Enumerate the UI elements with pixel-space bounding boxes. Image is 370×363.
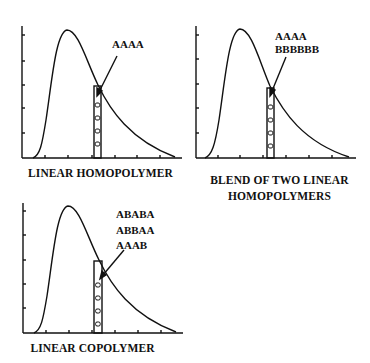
panel-caption: LINEAR COPOLYMER: [10, 342, 175, 354]
annotation-line: BBBBBB: [275, 43, 319, 56]
caption-line: HOMOPOLYMERS: [197, 188, 362, 204]
annotation-arrow: [103, 250, 124, 275]
annotation-line: AAAA: [112, 38, 144, 51]
panel-linear-homopolymer: [22, 26, 182, 158]
annotation-line: AAAA: [275, 30, 319, 43]
panel-caption: BLEND OF TWO LINEAR HOMOPOLYMERS: [197, 172, 362, 204]
annotation-arrow: [99, 56, 117, 92]
caption-line: LINEAR COPOLYMER: [10, 342, 175, 354]
annotation-line: AAAB: [116, 238, 155, 254]
annotation-line: ABBAA: [116, 223, 155, 239]
slice-markers: [95, 103, 99, 146]
annotation-arrow: [272, 57, 286, 91]
distribution-curve: [33, 30, 175, 158]
slice-bar: [94, 86, 101, 158]
annotation-label: AAAA: [112, 38, 144, 51]
annotation-label: AAAA BBBBBB: [275, 30, 319, 56]
caption-line: LINEAR HOMOPOLYMER: [18, 167, 183, 179]
annotation-line: ABABA: [116, 207, 155, 223]
slice-markers: [96, 283, 101, 326]
slice-markers: [268, 105, 272, 148]
annotation-label: ABABA ABBAA AAAB: [116, 207, 155, 254]
caption-line: BLEND OF TWO LINEAR: [197, 172, 362, 188]
panel-linear-copolymer: [23, 203, 183, 333]
panel-caption: LINEAR HOMOPOLYMER: [18, 167, 183, 179]
